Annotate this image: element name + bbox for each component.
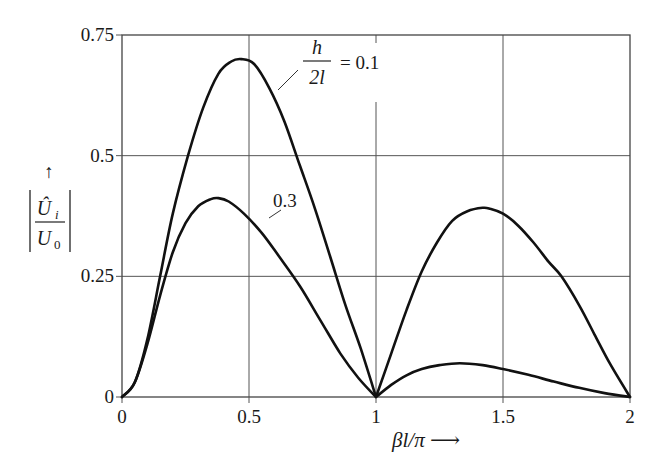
x-tick-label: 0 <box>117 406 127 427</box>
y-label-denominator-sub: 0 <box>54 237 61 252</box>
annotation-leader-line <box>278 70 298 90</box>
y-label-numerator: Û <box>37 196 53 219</box>
annotation-leader-line <box>269 210 281 218</box>
y-tick-label: 0.25 <box>81 265 114 286</box>
annotation-numerator: h <box>312 36 322 58</box>
y-label-numerator-sub: i <box>55 207 59 222</box>
grid-lines <box>122 35 630 397</box>
annotation-denominator: 2l <box>309 66 325 88</box>
y-tick-label: 0.5 <box>90 145 114 166</box>
x-axis-label: βl/π ⟶ <box>391 428 460 452</box>
y-tick-label: 0 <box>105 386 115 407</box>
y-label-denominator: U <box>37 227 53 249</box>
annotation-h-2l-0.1: h 2l = 0.1 <box>278 36 379 90</box>
x-tick-label: 1 <box>371 406 381 427</box>
x-tick-label: 0.5 <box>237 406 261 427</box>
annotation-0.3: 0.3 <box>269 190 297 218</box>
axis-ticks: 00.511.5200.250.50.75 <box>81 24 635 427</box>
x-tick-label: 1.5 <box>491 406 515 427</box>
x-tick-label: 2 <box>625 406 635 427</box>
annotation-value: = 0.1 <box>340 52 379 73</box>
up-arrow-icon: ↑ <box>44 161 54 182</box>
chart-canvas: 00.511.5200.250.50.75 h 2l = 0.1 0.3 ↑ Û… <box>0 0 659 471</box>
annotation-value: 0.3 <box>273 190 297 211</box>
y-axis-label: ↑ Û i U 0 <box>30 161 70 252</box>
y-tick-label: 0.75 <box>81 24 114 45</box>
